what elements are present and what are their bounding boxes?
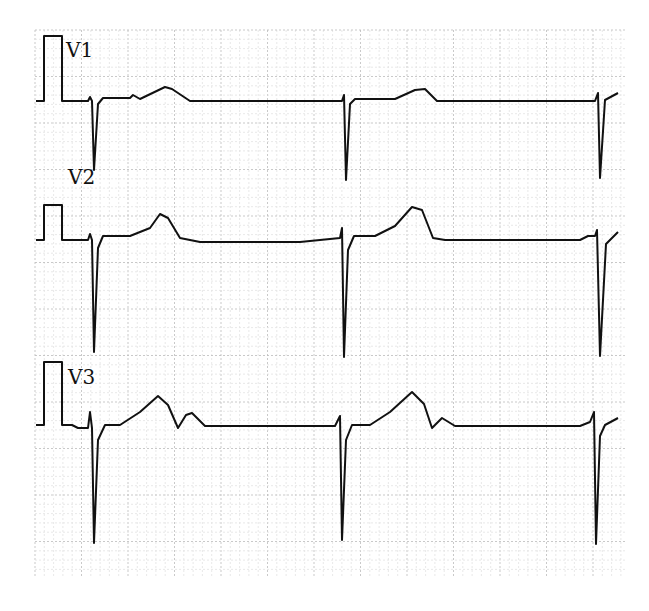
ecg-trace-v1	[36, 36, 70, 101]
ecg-trace-v1	[70, 87, 618, 180]
ecg-trace-v3	[36, 362, 618, 544]
lead-label-v2: V2	[68, 165, 95, 189]
lead-label-v1: V1	[66, 38, 93, 62]
lead-label-v3: V3	[68, 365, 95, 389]
ecg-traces	[0, 0, 649, 611]
ecg-trace-v2	[70, 207, 618, 357]
ecg-strip: V1 V2 V3	[0, 0, 649, 611]
ecg-trace-v2	[36, 205, 70, 240]
